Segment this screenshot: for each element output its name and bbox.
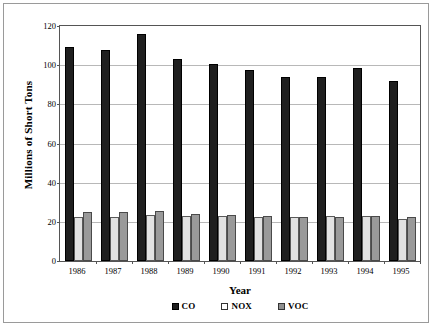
plot-area: 020406080100120 [59,25,421,262]
bar-co [245,70,254,261]
x-tick-mark [276,261,277,264]
bar-voc [83,212,92,261]
bar-voc [299,217,308,261]
x-axis-title: Year [59,284,421,296]
bar-voc [191,214,200,261]
bar-group [168,26,204,261]
x-tick-mark [96,261,97,264]
x-tick-mark [420,261,421,264]
bar-group [240,26,276,261]
legend-label: CO [182,301,196,311]
figure-frame: Millions of Short Tons 020406080100120 1… [3,3,429,323]
x-tick-mark [240,261,241,264]
x-tick-mark [204,261,205,264]
bar-nox [110,217,119,261]
bar-nox [398,219,407,261]
x-tick-mark [168,261,169,264]
y-tick-label: 100 [43,60,56,70]
y-tick-mark [57,261,60,262]
y-tick-label: 40 [48,178,57,188]
bar-voc [263,216,272,261]
legend-item-voc[interactable]: VOC [278,301,308,311]
x-axis-tick-labels: 1986198719881989199019911992199319941995 [59,266,421,280]
bar-nox [218,216,227,261]
x-tick-label: 1989 [177,266,194,276]
x-tick-label: 1992 [285,266,302,276]
bar-co [317,77,326,261]
bar-group [384,26,420,261]
legend-label: NOX [231,301,252,311]
bar-nox [362,216,371,261]
legend-label: VOC [288,301,308,311]
bar-voc [227,215,236,261]
y-tick-label: 80 [48,99,57,109]
x-tick-mark [312,261,313,264]
y-tick-label: 60 [48,139,57,149]
bar-nox [290,217,299,261]
bar-voc [371,216,380,261]
bar-voc [119,212,128,261]
bar-group [132,26,168,261]
chart-page: Millions of Short Tons 020406080100120 1… [0,0,433,328]
bar-co [209,64,218,261]
bar-co [173,59,182,261]
chart-legend: CONOXVOC [59,301,421,311]
bar-co [137,34,146,261]
bar-nox [326,216,335,261]
bar-group [60,26,96,261]
x-tick-label: 1990 [213,266,230,276]
legend-item-nox[interactable]: NOX [221,301,252,311]
bar-group [204,26,240,261]
legend-swatch-icon [172,303,179,310]
bar-group [312,26,348,261]
x-tick-mark [348,261,349,264]
bar-voc [407,217,416,261]
y-tick-label: 20 [48,217,57,227]
bar-voc [335,217,344,261]
bar-nox [182,216,191,261]
y-tick-label: 120 [43,21,56,31]
legend-swatch-icon [221,303,228,310]
x-tick-label: 1987 [105,266,122,276]
x-tick-label: 1993 [321,266,338,276]
bar-co [101,50,110,262]
bar-nox [254,217,263,261]
x-tick-label: 1991 [249,266,266,276]
bar-nox [146,215,155,261]
bar-group [96,26,132,261]
x-tick-label: 1986 [69,266,86,276]
x-tick-label: 1988 [141,266,158,276]
bar-group [348,26,384,261]
y-tick-label: 0 [52,256,56,266]
y-axis-title: Millions of Short Tons [22,45,34,225]
x-tick-label: 1995 [393,266,410,276]
bar-nox [74,217,83,261]
x-tick-label: 1994 [357,266,374,276]
bar-co [281,77,290,261]
bar-co [353,68,362,261]
x-tick-mark [132,261,133,264]
legend-item-co[interactable]: CO [172,301,196,311]
bar-co [389,81,398,261]
bar-voc [155,211,164,261]
legend-swatch-icon [278,303,285,310]
bar-co [65,47,74,261]
bars-layer [60,26,420,261]
bar-group [276,26,312,261]
x-tick-mark [384,261,385,264]
